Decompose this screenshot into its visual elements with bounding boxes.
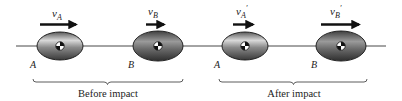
panel-after-impact: vA′ A vB′ B	[213, 4, 367, 99]
velocity-label-a: vA	[52, 7, 62, 22]
center-of-mass-icon	[337, 42, 345, 50]
body-b-after	[316, 31, 366, 61]
body-label-b: B	[128, 59, 134, 70]
body-label-a: A	[29, 59, 37, 70]
panel-before-impact: vA A vB B	[29, 5, 183, 99]
body-a-after	[222, 32, 268, 60]
brace-before-impact	[33, 79, 183, 85]
velocity-label-a-prime: vA′	[236, 4, 248, 20]
center-of-mass-icon	[56, 42, 64, 50]
brace-after-impact	[219, 79, 367, 85]
center-of-mass-icon	[241, 42, 249, 50]
velocity-label-b: vB	[148, 5, 158, 20]
velocity-label-b-prime: vB′	[330, 4, 342, 20]
body-a-before	[37, 32, 83, 60]
caption-after-impact: After impact	[267, 88, 320, 99]
caption-before-impact: Before impact	[78, 88, 138, 99]
center-of-mass-icon	[154, 42, 162, 50]
impact-diagram: vA A vB B	[0, 0, 402, 101]
body-label-b-prime: B	[311, 59, 317, 70]
body-label-a-prime: A	[213, 59, 221, 70]
body-b-before	[133, 31, 183, 61]
